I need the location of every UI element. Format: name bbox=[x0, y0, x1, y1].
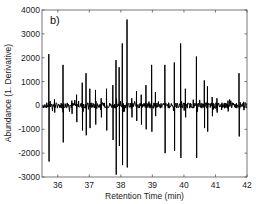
x-tick-label: 37 bbox=[85, 180, 95, 190]
y-tick-label: -2000 bbox=[18, 148, 40, 158]
x-tick-label: 38 bbox=[116, 180, 126, 190]
x-axis-label: Retention Time (min) bbox=[105, 191, 184, 201]
y-tick-label: 0 bbox=[35, 100, 40, 110]
y-tick-label: -3000 bbox=[18, 172, 40, 182]
derivative-chart: 36373839404142 -3000-2000-10000100020003… bbox=[0, 0, 256, 204]
y-axis-label: Abundance (1. Derivative) bbox=[3, 44, 13, 142]
panel-label: b) bbox=[50, 14, 60, 26]
x-tick-label: 40 bbox=[179, 180, 189, 190]
y-tick-label: 2000 bbox=[21, 53, 40, 63]
x-tick-label: 39 bbox=[148, 180, 158, 190]
x-tick-label: 41 bbox=[211, 180, 221, 190]
y-tick-label: 4000 bbox=[21, 5, 40, 15]
x-tick-label: 42 bbox=[242, 180, 252, 190]
y-tick-label: -1000 bbox=[18, 124, 40, 134]
y-tick-label: 3000 bbox=[21, 29, 40, 39]
y-tick-label: 1000 bbox=[21, 77, 40, 87]
x-tick-label: 36 bbox=[53, 180, 63, 190]
